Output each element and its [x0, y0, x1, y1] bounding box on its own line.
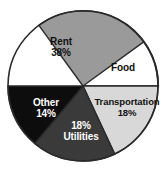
pie-chart: Rent 38% Food Transportation 18% Other 1…: [0, 0, 166, 172]
pie-chart-graphic: [0, 0, 166, 172]
